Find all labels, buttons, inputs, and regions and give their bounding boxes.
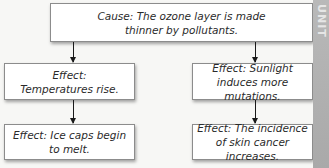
effect-text: Effect: Sunlight induces more mutations. (197, 61, 308, 103)
effect-box-temperatures: Effect: Temperatures rise. (4, 63, 135, 100)
effect-text: Effect: Temperatures rise. (20, 68, 120, 96)
effect-box-skin-cancer: Effect: The incidence of skin cancer inc… (192, 124, 313, 160)
effect-box-ice-caps: Effect: Ice caps begin to melt. (4, 124, 135, 160)
arrow-right-chain (255, 100, 256, 123)
effect-box-mutations: Effect: Sunlight induces more mutations. (192, 63, 313, 100)
side-tab-strip: UNIT (313, 0, 329, 168)
arrow-left-chain (73, 100, 74, 123)
side-tab-text: UNIT (315, 4, 328, 38)
arrow-cause-to-right (255, 42, 256, 62)
effect-text: Effect: Ice caps begin to melt. (11, 128, 129, 156)
effect-text: Effect: The incidence of skin cancer inc… (197, 121, 308, 163)
cause-text: Cause: The ozone layer is made thinner b… (97, 9, 267, 37)
cause-box: Cause: The ozone layer is made thinner b… (50, 3, 313, 42)
arrow-cause-to-left (73, 42, 74, 62)
